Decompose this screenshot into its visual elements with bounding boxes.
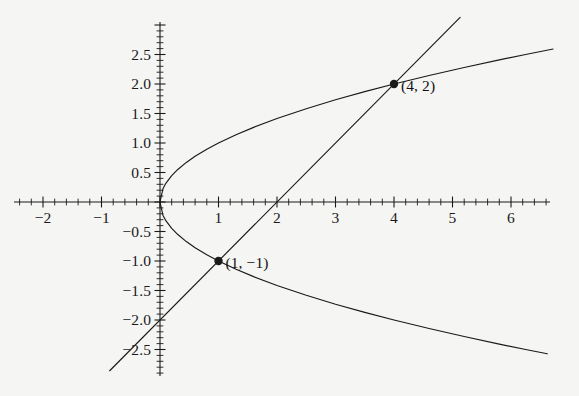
annotation-label-intersection-upper: (4, 2) <box>401 78 435 94</box>
y-tick-label: 1.5 <box>131 106 151 122</box>
y-tick-label: 2.5 <box>131 47 151 63</box>
axes <box>14 22 550 376</box>
y-tick-label: −0.5 <box>122 224 151 240</box>
y-tick-label: 1.0 <box>131 135 151 151</box>
y-tick-label: −1.0 <box>122 253 151 269</box>
x-tick-label: 2 <box>273 210 281 226</box>
x-tick-label: −2 <box>35 210 52 226</box>
y-tick-label: −2.5 <box>122 342 151 358</box>
curve-parabola-upper <box>160 49 553 202</box>
y-tick-label: 2.0 <box>131 76 151 92</box>
annotation-label-intersection-lower: (1, −1) <box>226 255 269 271</box>
plot-canvas <box>0 0 579 396</box>
x-tick-label: 5 <box>449 210 457 226</box>
x-tick-label: 4 <box>390 210 398 226</box>
x-tick-label: 3 <box>332 210 340 226</box>
y-tick-label: −2.0 <box>122 312 151 328</box>
x-tick-label: 6 <box>507 210 515 226</box>
x-tick-label: −1 <box>93 210 110 226</box>
curves <box>110 17 553 370</box>
y-tick-label: 0.5 <box>131 165 151 181</box>
x-tick-label: 1 <box>215 210 223 226</box>
y-tick-label: −1.5 <box>122 283 151 299</box>
marker-intersection-upper <box>390 80 398 88</box>
graph-figure: −2−11234562.52.01.51.00.5−0.5−1.0−1.5−2.… <box>0 0 579 396</box>
marker-intersection-lower <box>214 257 222 265</box>
